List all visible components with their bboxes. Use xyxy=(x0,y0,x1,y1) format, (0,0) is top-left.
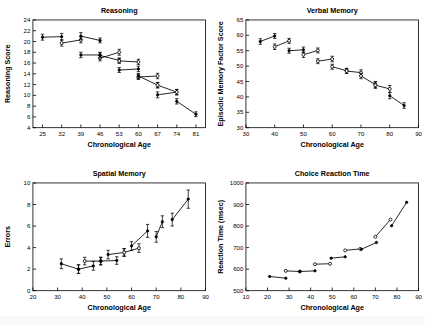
data-series xyxy=(41,33,64,40)
data-series xyxy=(343,247,361,252)
data-point-filled xyxy=(302,49,304,51)
panel-choice-reaction-time: Choice Reaction Time50060070080090010001… xyxy=(213,163,425,325)
data-point-filled xyxy=(116,259,118,261)
data-point-open xyxy=(156,84,159,87)
series-line xyxy=(172,199,188,219)
data-point-open xyxy=(301,53,304,56)
x-axis-label: Chronological Age xyxy=(87,141,151,149)
data-series xyxy=(171,190,190,226)
data-series xyxy=(60,37,83,46)
y-tick-label: 50 xyxy=(236,62,243,69)
x-tick-label: 90 xyxy=(415,130,422,137)
data-series xyxy=(79,33,102,43)
series-line xyxy=(332,67,346,71)
series-line xyxy=(156,221,162,236)
data-point-open xyxy=(373,84,376,87)
data-point-open xyxy=(316,60,319,63)
data-point-filled xyxy=(329,257,331,259)
x-tick-label: 50 xyxy=(328,293,335,300)
x-tick-label: 10 xyxy=(242,293,249,300)
y-tick-label: 6 xyxy=(27,113,31,120)
y-tick-label: 1000 xyxy=(229,179,243,186)
y-tick-label: 18 xyxy=(24,48,31,55)
data-point-open xyxy=(328,262,331,265)
series-line xyxy=(81,36,100,40)
data-point-open xyxy=(359,74,362,77)
y-tick-label: 6 xyxy=(27,222,31,229)
series-line xyxy=(345,249,360,251)
x-tick-label: 32 xyxy=(58,130,65,137)
series-line xyxy=(61,263,78,268)
y-tick-label: 65 xyxy=(236,16,243,23)
y-tick-label: 20 xyxy=(24,38,31,45)
series-line xyxy=(303,50,317,54)
x-tick-label: 80 xyxy=(177,293,184,300)
data-point-filled xyxy=(99,39,101,41)
y-tick-label: 24 xyxy=(24,16,31,23)
figure-panel-grid: Reasoning4681012141618202224253239465360… xyxy=(0,0,425,325)
data-series xyxy=(175,99,198,117)
data-point-filled xyxy=(195,113,197,115)
scan-artifact xyxy=(0,316,425,325)
y-tick-label: 900 xyxy=(233,200,244,207)
data-point-filled xyxy=(284,277,286,279)
y-tick-label: 10 xyxy=(24,91,31,98)
series-line xyxy=(361,242,376,249)
data-point-open xyxy=(373,235,376,238)
x-tick-label: 70 xyxy=(153,293,160,300)
series-line xyxy=(299,270,314,271)
x-tick-label: 50 xyxy=(300,130,307,137)
x-tick-label: 74 xyxy=(173,130,180,137)
panel-verbal-memory: Verbal Memory303540455055606530405060708… xyxy=(213,0,425,163)
y-axis-label: Errors xyxy=(4,226,12,248)
data-point-filled xyxy=(390,224,392,226)
data-point-filled xyxy=(60,35,62,37)
y-tick-label: 22 xyxy=(24,27,31,34)
data-series xyxy=(77,261,95,273)
data-point-open xyxy=(137,246,140,249)
data-point-open xyxy=(388,87,391,90)
data-point-filled xyxy=(80,54,82,56)
data-series xyxy=(329,255,346,259)
data-series xyxy=(155,215,165,241)
x-tick-label: 40 xyxy=(307,293,314,300)
series-line xyxy=(289,50,303,51)
data-point-open xyxy=(330,65,333,68)
series-line xyxy=(119,69,138,70)
x-tick-label: 46 xyxy=(97,130,104,137)
x-tick-label: 81 xyxy=(193,130,200,137)
x-tick-label: 90 xyxy=(415,293,422,300)
data-series xyxy=(156,89,179,97)
y-tick-label: 35 xyxy=(236,108,243,115)
data-series xyxy=(98,49,121,61)
y-tick-label: 8 xyxy=(27,102,31,109)
series-line xyxy=(62,40,81,43)
data-series xyxy=(258,33,276,44)
series-line xyxy=(274,41,288,47)
data-point-open xyxy=(156,74,159,77)
y-axis-label: Episodic Memory Factor Score xyxy=(216,21,224,126)
data-point-filled xyxy=(80,35,82,37)
data-series xyxy=(373,82,391,92)
data-point-open xyxy=(287,39,290,42)
data-point-filled xyxy=(60,262,62,264)
y-tick-label: 14 xyxy=(24,70,31,77)
plot-frame xyxy=(245,183,418,291)
y-axis-label: Reasoning Score xyxy=(4,45,12,104)
x-tick-label: 30 xyxy=(285,293,292,300)
x-tick-label: 60 xyxy=(328,130,335,137)
series-line xyxy=(391,202,406,225)
data-point-open xyxy=(118,59,121,62)
x-tick-label: 90 xyxy=(202,293,209,300)
panel-title: Spatial Memory xyxy=(93,170,146,178)
data-point-filled xyxy=(99,54,101,56)
series-line xyxy=(260,36,274,42)
series-line xyxy=(389,96,403,106)
data-point-filled xyxy=(259,40,261,42)
y-tick-label: 2 xyxy=(27,265,31,272)
data-point-filled xyxy=(287,49,289,51)
series-line xyxy=(331,256,345,257)
x-tick-label: 50 xyxy=(104,293,111,300)
data-series xyxy=(268,275,287,279)
y-tick-label: 8 xyxy=(27,200,31,207)
